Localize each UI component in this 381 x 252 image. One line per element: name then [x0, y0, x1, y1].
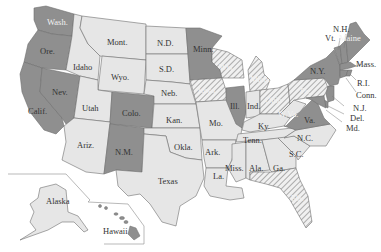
label-wis: Wis. — [219, 63, 234, 72]
label-la: La. — [213, 172, 224, 181]
label-nc: N.C. — [297, 134, 313, 143]
label-hawaii: Hawaii — [103, 227, 128, 236]
label-mich: Mich. — [250, 75, 270, 84]
label-utah: Utah — [82, 104, 99, 113]
label-minn: Minn. — [193, 45, 214, 54]
label-ind: Ind. — [247, 102, 260, 111]
label-ri: R.I. — [357, 79, 370, 88]
label-iowa: Iowa — [198, 86, 215, 95]
label-maine: Maine — [339, 34, 361, 43]
label-ill: Ill. — [230, 102, 240, 111]
label-wyo: Wyo. — [111, 73, 129, 82]
us-states-map — [0, 0, 381, 252]
state-alaska[interactable] — [20, 184, 88, 240]
label-vt: Vt. — [325, 34, 336, 43]
label-wva: W.Va. — [278, 110, 298, 119]
state-nj[interactable] — [326, 86, 334, 102]
label-miss: Miss. — [225, 164, 244, 173]
label-alaska: Alaska — [46, 197, 70, 206]
label-calif: Calif. — [28, 107, 47, 116]
label-pa: Pa. — [300, 87, 311, 96]
label-va: Va. — [304, 116, 315, 125]
label-texas: Texas — [158, 177, 178, 186]
label-ariz: Ariz. — [77, 141, 94, 150]
label-kan: Kan. — [166, 116, 182, 125]
label-ky: Ky. — [258, 122, 270, 131]
label-colo: Colo. — [122, 109, 141, 118]
label-okla: Okla. — [174, 143, 193, 152]
label-md: Md. — [346, 124, 360, 133]
label-idaho: Idaho — [73, 63, 92, 72]
label-nev: Nev. — [52, 88, 68, 97]
label-sd: S.D. — [159, 65, 174, 74]
label-mo: Mo. — [209, 119, 223, 128]
label-mont: Mont. — [107, 38, 128, 47]
label-nd: N.D. — [157, 39, 174, 48]
label-ore: Ore. — [40, 47, 55, 56]
label-neb: Neb. — [161, 89, 177, 98]
label-sc: S.C. — [289, 150, 304, 159]
label-tenn: Tenn. — [243, 136, 262, 145]
label-nj: N.J. — [353, 104, 367, 113]
label-del: Del. — [350, 114, 364, 123]
label-ny: N.Y. — [310, 67, 325, 76]
label-ala: Ala. — [249, 164, 263, 173]
label-nm: N.M. — [115, 148, 133, 157]
label-mass: Mass. — [356, 60, 376, 69]
label-fla: Fla. — [291, 194, 304, 203]
label-conn: Conn. — [356, 91, 377, 100]
label-ohio: Ohio — [265, 96, 282, 105]
label-ga: Ga. — [273, 164, 285, 173]
label-ark: Ark. — [205, 148, 220, 157]
label-wash: Wash. — [47, 18, 68, 27]
